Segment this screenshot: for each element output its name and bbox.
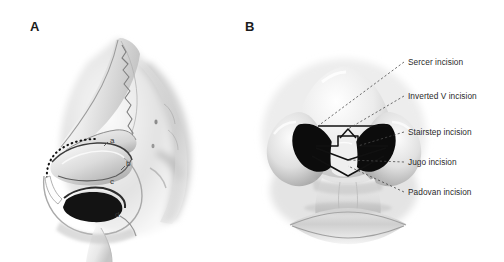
marker-b: b xyxy=(126,160,130,168)
panel-label-b: B xyxy=(245,20,255,33)
panel-a-illustration xyxy=(0,0,252,262)
columella xyxy=(331,137,358,177)
marker-a: a xyxy=(110,137,114,145)
callout-inverted-v-incision: Inverted V incision xyxy=(408,92,477,100)
medial-crus xyxy=(45,176,62,204)
callout-stairstep-incision: Stairstep incision xyxy=(408,128,472,136)
figure-root: a b c d xyxy=(0,0,504,262)
panel-a: a b c d xyxy=(0,0,252,262)
panel-label-a: A xyxy=(30,20,40,33)
marker-d: d xyxy=(115,211,119,219)
callout-jugo-incision: Jugo incision xyxy=(408,158,457,166)
callout-sercer-incision: Sercer incision xyxy=(408,58,463,66)
callout-padovan-incision: Padovan incision xyxy=(408,188,472,196)
marker-c: c xyxy=(110,178,114,186)
